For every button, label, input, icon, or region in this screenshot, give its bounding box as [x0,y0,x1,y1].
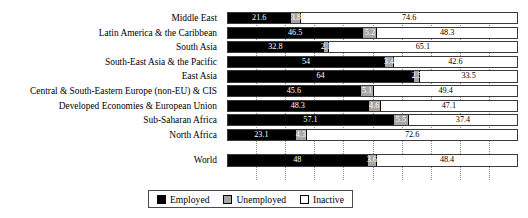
bar-value-label: 33.5 [461,72,475,80]
bar-value-label: 37.4 [456,116,470,124]
bar-value-label: 57.1 [303,116,317,124]
bar-segment-employed: 32.8 [228,42,323,52]
bar-value-label: 3.4 [384,58,394,66]
category-label: South Asia [176,42,217,52]
legend-swatch-unemployed [223,195,232,204]
bar-row: 21.63.874.6 [227,12,518,24]
bar-segment-unemployed: 5.2 [362,28,377,38]
legend-item-unemployed: Unemployed [223,194,286,205]
bar-value-label: 54 [302,58,310,66]
bar-value-label: 21.6 [252,14,266,22]
bar-segment-inactive: 72.6 [307,130,517,140]
bar-value-label: 72.6 [405,131,419,139]
bar-value-label: 48.4 [440,156,454,164]
bar-segment-employed: 21.6 [228,13,290,23]
bar-value-label: 74.6 [402,14,416,22]
bar-row: 46.55.248.3 [227,27,518,39]
bar-segment-employed: 54 [228,57,384,67]
category-label: World [194,155,217,165]
bar-segment-inactive: 42.6 [394,57,517,67]
bar-segment-inactive: 74.6 [301,13,517,23]
bar-segment-employed: 46.5 [228,28,362,38]
category-label: Latin America & the Caribbean [99,28,217,38]
legend-swatch-employed [157,195,166,204]
bar-segment-inactive: 48.3 [377,28,517,38]
category-label: North Africa [169,130,217,140]
category-label: Sub-Saharan Africa [143,115,217,125]
category-label: Middle East [171,13,217,23]
legend-item-inactive: Inactive [300,194,344,205]
legend-label-unemployed: Unemployed [236,194,286,205]
bar-row: 57.15.537.4 [227,114,518,126]
bar-segment-unemployed: 3.8 [290,13,301,23]
bar-value-label: 4.3 [296,131,306,139]
chart-legend: Employed Unemployed Inactive [148,190,353,208]
bar-row: 23.14.372.6 [227,129,518,141]
bar-value-label: 32.8 [268,43,282,51]
plot-area: 21.63.874.646.55.248.332.82.165.1543.442… [227,12,518,180]
bar-segment-inactive: 48.4 [377,155,517,165]
bar-segment-unemployed: 3.4 [384,57,394,67]
bar-row: 32.82.165.1 [227,41,518,53]
bar-value-label: 48.3 [440,29,454,37]
bar-value-label: 23.1 [254,131,268,139]
bar-segment-employed: 23.1 [228,130,295,140]
bar-value-label: 65.1 [416,43,430,51]
bar-value-label: 5.2 [365,29,375,37]
legend-item-employed: Employed [157,194,209,205]
category-label: Central & South-Eastern Europe (non-EU) … [30,86,217,96]
bar-value-label: 3.6 [367,156,377,164]
bar-segment-inactive: 65.1 [329,42,517,52]
category-label: Developed Economies & European Union [59,101,217,111]
bar-row: 45.65.149.4 [227,85,518,97]
bar-row: 642.533.5 [227,70,518,82]
bar-value-label: 48 [293,156,301,164]
category-label: South-East Asia & the Pacific [105,57,217,67]
bar-segment-inactive: 37.4 [409,115,517,125]
bar-value-label: 42.6 [448,58,462,66]
bar-segment-unemployed: 3.6 [367,155,377,165]
bar-segment-employed: 64 [228,71,413,81]
legend-label-employed: Employed [170,194,209,205]
bar-value-label: 3.8 [291,14,301,22]
bar-segment-unemployed: 5.5 [393,115,409,125]
bar-value-label: 4.6 [369,102,379,110]
bar-segment-inactive: 49.4 [374,86,517,96]
bar-value-label: 49.4 [439,87,453,95]
bar-segment-unemployed: 4.3 [295,130,307,140]
bar-value-label: 48.3 [291,102,305,110]
stacked-bar-chart: Middle EastLatin America & the Caribbean… [0,0,528,218]
category-label: East Asia [182,71,217,81]
bar-value-label: 64 [316,72,324,80]
legend-swatch-inactive [300,195,309,204]
bar-segment-unemployed: 4.6 [368,101,381,111]
bar-row: 483.648.4 [227,154,518,166]
bar-segment-inactive: 33.5 [420,71,517,81]
bar-row: 543.442.6 [227,56,518,68]
bar-row: 48.34.647.1 [227,100,518,112]
bar-value-label: 45.6 [287,87,301,95]
legend-label-inactive: Inactive [313,194,344,205]
bar-segment-inactive: 47.1 [381,101,517,111]
bar-segment-employed: 57.1 [228,115,393,125]
bar-value-label: 46.5 [288,29,302,37]
bar-value-label: 47.1 [442,102,456,110]
bar-value-label: 5.5 [396,116,406,124]
category-labels-axis: Middle EastLatin America & the Caribbean… [0,12,222,180]
bar-segment-employed: 48 [228,155,367,165]
bar-segment-employed: 45.6 [228,86,360,96]
bar-segment-unemployed: 2.5 [413,71,420,81]
bar-segment-employed: 48.3 [228,101,368,111]
bar-value-label: 5.1 [362,87,372,95]
bar-segment-unemployed: 5.1 [360,86,375,96]
